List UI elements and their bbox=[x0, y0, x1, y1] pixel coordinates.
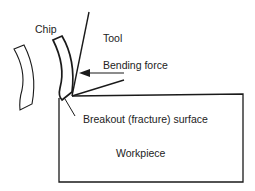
breakout-leader-line bbox=[65, 99, 75, 116]
chip-label: Chip bbox=[35, 24, 57, 35]
bending-force-label: Bending force bbox=[103, 60, 168, 71]
workpiece-shape bbox=[59, 94, 243, 182]
tool-shape bbox=[72, 12, 124, 96]
tool-label: Tool bbox=[103, 33, 122, 44]
workpiece-label: Workpiece bbox=[116, 148, 165, 159]
chip-attached-shape bbox=[53, 36, 73, 100]
breakout-surface-label: Breakout (fracture) surface bbox=[83, 114, 208, 125]
chip-detached-shape bbox=[14, 45, 34, 110]
